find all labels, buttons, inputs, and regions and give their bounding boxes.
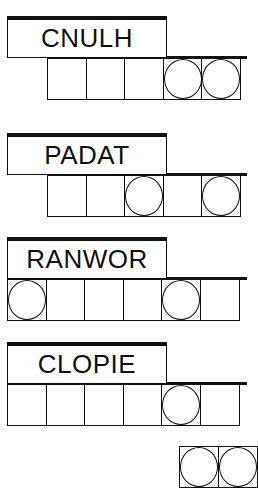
letter-cell[interactable] <box>86 175 126 217</box>
answer-cells <box>7 279 240 321</box>
answer-cells <box>7 384 240 426</box>
letter-cell[interactable] <box>123 279 163 321</box>
scrambled-word-label: CLOPIE <box>7 342 167 384</box>
scrambled-word-label: CNULH <box>7 16 167 58</box>
letter-cell[interactable] <box>200 384 240 426</box>
circled-letter-cell[interactable] <box>161 384 201 426</box>
letter-cell[interactable] <box>47 58 87 100</box>
circled-letter-cell[interactable] <box>218 446 258 488</box>
circled-letter-cell[interactable] <box>179 446 219 488</box>
answer-cells <box>47 58 241 100</box>
letter-cell[interactable] <box>84 384 124 426</box>
letter-cell[interactable] <box>200 279 240 321</box>
scrambled-word-label: PADAT <box>7 133 167 175</box>
circled-letter-cell[interactable] <box>7 279 47 321</box>
circled-letter-cell[interactable] <box>161 279 201 321</box>
circled-letter-cell[interactable] <box>163 58 203 100</box>
circled-letter-cell[interactable] <box>201 175 241 217</box>
letter-cell[interactable] <box>46 279 86 321</box>
letter-cell[interactable] <box>84 279 124 321</box>
scrambled-word-label: RANWOR <box>7 237 167 279</box>
letter-cell[interactable] <box>163 175 203 217</box>
circled-letter-cell[interactable] <box>124 175 164 217</box>
letter-cell[interactable] <box>124 58 164 100</box>
final-answer-cells-partial <box>179 446 258 488</box>
letter-cell[interactable] <box>46 384 86 426</box>
circled-letter-cell[interactable] <box>201 58 241 100</box>
letter-cell[interactable] <box>123 384 163 426</box>
answer-cells <box>47 175 241 217</box>
letter-cell[interactable] <box>7 384 47 426</box>
letter-cell[interactable] <box>47 175 87 217</box>
letter-cell[interactable] <box>86 58 126 100</box>
